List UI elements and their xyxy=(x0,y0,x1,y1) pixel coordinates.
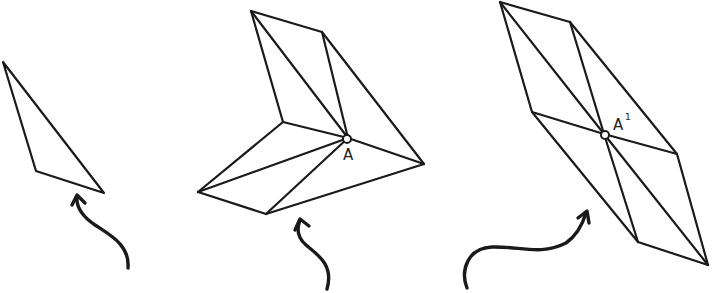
label-a-prime: A xyxy=(613,116,624,134)
panel-original-triangle xyxy=(3,62,128,268)
edge xyxy=(500,2,570,22)
edge xyxy=(604,134,677,154)
edge xyxy=(604,134,638,242)
arrow-2 xyxy=(298,220,329,289)
label-a-prime-sup: 1 xyxy=(625,112,631,122)
diagram-canvas: A A 1 xyxy=(0,0,723,293)
edge xyxy=(251,11,283,122)
edge xyxy=(500,2,532,112)
edge xyxy=(266,138,348,214)
edge xyxy=(266,164,424,214)
edge xyxy=(570,22,677,154)
edge xyxy=(677,154,708,265)
arrow-3 xyxy=(465,213,586,288)
panel-partial-rotation: A xyxy=(198,11,424,289)
edge xyxy=(570,22,604,134)
arrow-1 xyxy=(77,196,128,268)
point-a xyxy=(343,135,351,143)
edge xyxy=(500,2,604,134)
edge xyxy=(198,192,266,214)
edge xyxy=(604,134,708,265)
triangle xyxy=(3,62,104,193)
edge xyxy=(198,122,283,192)
edge xyxy=(198,138,348,192)
label-a: A xyxy=(343,146,354,164)
arrow-2-head xyxy=(295,219,309,230)
point-a-prime xyxy=(601,131,609,139)
edge xyxy=(532,112,604,134)
panel-full-rotation: A 1 xyxy=(465,2,708,288)
